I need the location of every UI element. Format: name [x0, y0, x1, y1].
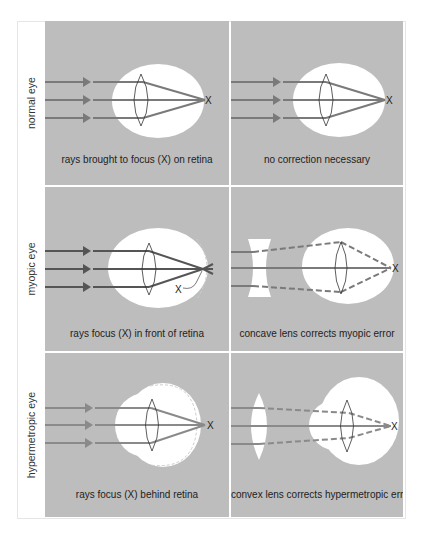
row-label-normal: normal eye	[17, 21, 45, 185]
caption: convex lens corrects hypermetropic error	[231, 489, 403, 500]
svg-text:X: X	[386, 95, 393, 106]
caption: rays focus (X) behind retina	[45, 489, 229, 500]
caption: no correction necessary	[231, 154, 403, 165]
caption: rays brought to focus (X) on retina	[45, 154, 229, 165]
svg-text:X: X	[207, 420, 214, 431]
panel-normal-correction: X no correction necessary	[231, 21, 403, 185]
svg-text:X: X	[175, 284, 182, 295]
row-label-myopic: myopic eye	[17, 187, 45, 351]
panel-hypermetropic-eye: X rays focus (X) behind retina	[45, 353, 229, 517]
myopic-eye-diagram: X	[45, 187, 229, 351]
panel-normal-eye: X rays brought to focus (X) on retina	[45, 21, 229, 185]
svg-text:X: X	[205, 95, 212, 106]
panel-hypermetropic-correction: X convex lens corrects hypermetropic err…	[231, 353, 403, 517]
row-label-text: hypermetropic eye	[25, 392, 37, 478]
svg-text:X: X	[392, 263, 399, 274]
svg-text:X: X	[391, 421, 398, 432]
caption: concave lens corrects myopic error	[231, 328, 403, 339]
row-label-text: myopic eye	[25, 242, 37, 295]
caption: rays focus (X) in front of retina	[45, 328, 229, 339]
row-label-hypermetropic: hypermetropic eye	[17, 353, 45, 517]
myopic-correction-diagram: X	[231, 187, 403, 351]
panel-myopic-eye: X rays focus (X) in front of retina	[45, 187, 229, 351]
panel-myopic-correction: X concave lens corrects myopic error	[231, 187, 403, 351]
row-label-text: normal eye	[25, 77, 37, 129]
